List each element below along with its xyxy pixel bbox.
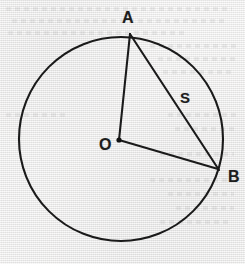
center-point-dot xyxy=(116,137,121,142)
radius-line-oa xyxy=(119,34,130,140)
label-chord-s: S xyxy=(180,90,190,105)
circle-geometry-figure xyxy=(0,0,245,264)
chord-line-ab xyxy=(130,34,219,170)
label-point-b: B xyxy=(228,169,240,185)
diagram-page: A B O S xyxy=(0,0,245,264)
label-point-a: A xyxy=(122,10,134,26)
label-center-o: O xyxy=(99,137,111,153)
